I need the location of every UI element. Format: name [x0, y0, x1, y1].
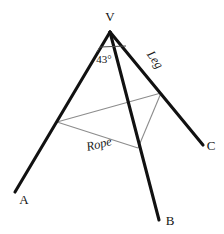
vertex-label-V: V [105, 9, 115, 24]
vertex-label-C: C [207, 138, 216, 153]
apex-angle-label: 43° [96, 53, 111, 65]
vertex-label-B: B [166, 213, 175, 228]
tripod-diagram: 43° V A B C Leg Rope [0, 0, 224, 234]
figure-root: 43° V A B C Leg Rope [0, 0, 224, 234]
vertex-label-A: A [19, 192, 29, 207]
